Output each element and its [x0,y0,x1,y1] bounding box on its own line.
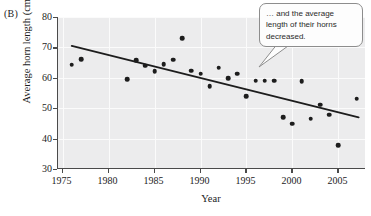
y-tick-mark [53,169,57,170]
y-tick-label: 40 [26,133,52,144]
data-point [226,76,231,81]
data-point [336,143,341,148]
x-tick-label: 1980 [88,175,128,186]
data-point [207,84,212,89]
y-tick-label: 80 [26,11,52,22]
data-point [263,79,268,84]
data-point [281,115,286,120]
x-tick-mark [337,169,338,173]
data-point [152,69,157,74]
annotation-callout: … and the average length of their horns … [259,3,363,47]
data-point [355,96,360,101]
y-tick-label: 30 [26,163,52,174]
data-point [272,78,277,83]
data-point [309,117,314,122]
data-point [198,71,203,76]
data-point [143,63,148,68]
x-tick-mark [154,169,155,173]
data-point [290,121,295,126]
y-tick-label: 50 [26,102,52,113]
data-point [79,57,84,62]
x-tick-label: 1975 [42,175,82,186]
data-point [318,102,323,107]
trend-line [72,46,359,117]
data-point [69,62,74,67]
x-tick-mark [62,169,63,173]
y-tick-label: 60 [26,72,52,83]
panel-label: (B) [4,8,18,19]
data-point [327,113,332,118]
data-point [299,79,304,84]
y-tick-label: 70 [26,41,52,52]
data-point [189,68,194,73]
figure-panel-b: (B) Average horn length (cm) Year 304050… [0,0,371,216]
data-point [134,58,139,63]
x-tick-label: 1995 [225,175,265,186]
x-tick-mark [108,169,109,173]
x-tick-mark [291,169,292,173]
data-point [244,94,249,99]
x-tick-label: 2000 [271,175,311,186]
data-point [180,36,185,41]
data-point [171,57,176,62]
data-point [161,62,166,67]
x-axis-label: Year [57,193,365,204]
x-tick-mark [245,169,246,173]
x-tick-label: 1990 [180,175,220,186]
data-point [125,77,130,82]
x-tick-label: 2005 [317,175,357,186]
x-tick-mark [200,169,201,173]
data-point [253,79,258,84]
x-tick-label: 1985 [134,175,174,186]
data-point [235,72,240,77]
data-point [217,65,222,70]
